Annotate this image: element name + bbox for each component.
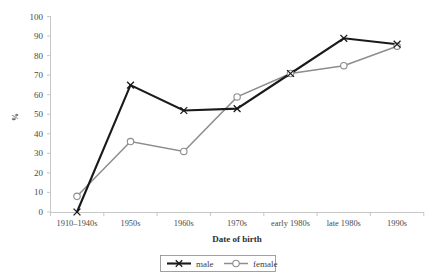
y-axis-title: % bbox=[11, 113, 20, 121]
chart-legend: male female bbox=[161, 256, 278, 272]
x-tick-label-1: 1950s bbox=[120, 219, 140, 228]
legend-label-male: male bbox=[196, 259, 214, 269]
x-tick-label-4: early 1980s bbox=[271, 219, 310, 228]
series-markers-male bbox=[74, 35, 401, 216]
y-tick-label-60: 60 bbox=[34, 90, 44, 100]
x-axis-title: Date of birth bbox=[212, 234, 262, 244]
chart-canvas: 100 90 80 70 60 50 40 30 20 10 0 1910–19… bbox=[0, 0, 433, 279]
y-tick-label-50: 50 bbox=[34, 109, 44, 119]
x-tick-label-2: 1960s bbox=[174, 219, 194, 228]
x-tick-label-6: 1990s bbox=[387, 219, 407, 228]
legend-marker-circle-icon bbox=[233, 260, 239, 266]
y-tick-label-100: 100 bbox=[30, 12, 44, 22]
y-axis-ticks bbox=[47, 17, 51, 213]
series-markers-female bbox=[74, 43, 401, 200]
series-line-female bbox=[77, 46, 397, 196]
y-tick-label-90: 90 bbox=[34, 31, 44, 41]
y-tick-label-0: 0 bbox=[39, 207, 44, 217]
y-tick-label-80: 80 bbox=[34, 51, 44, 61]
y-tick-label-20: 20 bbox=[34, 168, 44, 178]
y-tick-label-10: 10 bbox=[34, 187, 44, 197]
line-chart-figure: 100 90 80 70 60 50 40 30 20 10 0 1910–19… bbox=[0, 0, 433, 279]
x-tick-label-3: 1970s bbox=[227, 219, 247, 228]
y-tick-label-70: 70 bbox=[34, 70, 44, 80]
y-tick-label-30: 30 bbox=[34, 148, 44, 158]
legend-label-female: female bbox=[253, 259, 277, 269]
x-axis-ticks bbox=[51, 213, 424, 217]
x-tick-label-5: late 1980s bbox=[327, 219, 361, 228]
x-tick-label-0: 1910–1940s bbox=[57, 219, 98, 228]
y-tick-label-40: 40 bbox=[34, 129, 44, 139]
